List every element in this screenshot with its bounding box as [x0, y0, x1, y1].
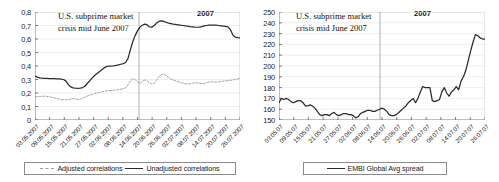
y-tick-label: 230 — [250, 29, 275, 38]
y-tick-label: 0,1 — [0, 102, 31, 111]
legend-entry-adjusted: Adjusted correlations — [40, 164, 122, 173]
y-tick-label: 0,8 — [0, 8, 31, 17]
y-tick-label: 220 — [250, 40, 275, 49]
y-tick-label: 200 — [250, 62, 275, 71]
y-tick-label: 160 — [250, 105, 275, 114]
chart-panel-embi: 150160170180190200210220230240250 03.05.… — [250, 0, 499, 182]
legend-swatch-solid-icon — [125, 168, 143, 169]
y-tick-label: 190 — [250, 72, 275, 81]
figure-container: 00,10,20,30,40,50,60,70,8 03.05.200709.0… — [0, 0, 499, 182]
legend-swatch-embi-icon — [327, 168, 345, 169]
legend-right: EMBI Global Avg spread — [303, 162, 447, 175]
legend-swatch-dashed-icon — [40, 168, 54, 169]
y-tick-label: 0,4 — [0, 62, 31, 71]
y-tick-label: 0 — [0, 116, 31, 125]
legend-entry-embi: EMBI Global Avg spread — [327, 164, 424, 173]
y-tick-label: 180 — [250, 83, 275, 92]
plot-area-embi — [279, 12, 485, 120]
plot-area-correlations — [35, 12, 240, 120]
y-tick-label: 150 — [250, 116, 275, 125]
y-tick-label: 0,3 — [0, 75, 31, 84]
y-tick-label: 210 — [250, 51, 275, 60]
y-tick-label: 0,5 — [0, 48, 31, 57]
y-tick-label: 240 — [250, 18, 275, 27]
legend-label-adjusted: Adjusted correlations — [57, 164, 122, 173]
legend-entry-unadjusted: Unadjusted correlations — [125, 164, 219, 173]
legend-label-embi: EMBI Global Avg spread — [348, 164, 424, 173]
legend-left: Adjusted correlations Unadjusted correla… — [24, 162, 236, 175]
y-tick-label: 0,2 — [0, 89, 31, 98]
chart-panel-correlations: 00,10,20,30,40,50,60,70,8 03.05.200709.0… — [0, 0, 250, 182]
y-tick-label: 0,7 — [0, 21, 31, 30]
y-tick-label: 250 — [250, 8, 275, 17]
y-tick-label: 0,6 — [0, 35, 31, 44]
legend-label-unadjusted: Unadjusted correlations — [146, 164, 219, 173]
y-tick-label: 170 — [250, 94, 275, 103]
